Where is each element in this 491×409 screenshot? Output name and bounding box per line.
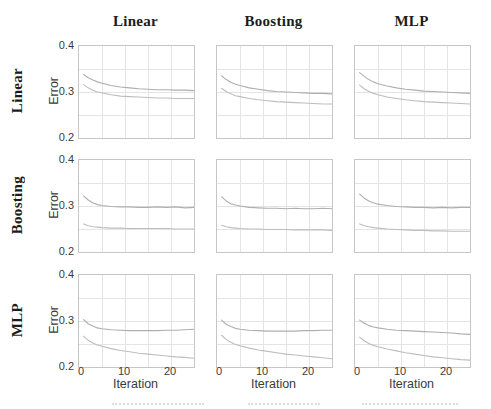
col-title-mlp: MLP [354, 13, 469, 33]
y-tick-0_3: 0.3 [38, 85, 74, 97]
x-axis-label-col2: Iteration [216, 377, 331, 391]
x-axis-label-col3: Iteration [354, 377, 469, 391]
x-tick-10: 10 [109, 365, 139, 377]
y-tick-0_4: 0.4 [38, 39, 74, 51]
y-tick-0_4: 0.4 [38, 153, 74, 165]
cropped-caption-artifact [362, 403, 458, 405]
x-tick-20: 20 [155, 365, 185, 377]
subplot-boosting-mlp [354, 159, 471, 253]
x-tick-0: 0 [204, 365, 234, 377]
subplot-mlp-mlp [354, 274, 471, 368]
x-tick-20: 20 [431, 365, 461, 377]
y-tick-0_2: 0.2 [38, 245, 74, 257]
subplot-mlp-boosting [216, 274, 333, 368]
col-title-linear: Linear [78, 13, 193, 33]
x-axis-label-col1: Iteration [78, 377, 193, 391]
y-tick-0_3: 0.3 [38, 199, 74, 211]
row-title-mlp: MLP [6, 274, 28, 366]
row-title-linear: Linear [6, 45, 28, 137]
figure-3x3-error-grid: Linear Boosting MLP Linear Boosting MLP … [0, 0, 491, 409]
x-tick-10: 10 [385, 365, 415, 377]
subplot-boosting-boosting [216, 159, 333, 253]
row-title-boosting: Boosting [6, 159, 28, 251]
subplot-mlp-linear [78, 274, 195, 368]
cropped-caption-artifact [248, 403, 320, 405]
x-tick-0: 0 [342, 365, 372, 377]
subplot-linear-linear [78, 45, 195, 139]
col-title-boosting: Boosting [216, 13, 331, 33]
y-tick-0_4: 0.4 [38, 268, 74, 280]
x-tick-10: 10 [247, 365, 277, 377]
x-tick-20: 20 [293, 365, 323, 377]
subplot-boosting-linear [78, 159, 195, 253]
subplot-linear-boosting [216, 45, 333, 139]
x-tick-0: 0 [66, 365, 96, 377]
cropped-caption-artifact [112, 403, 204, 405]
y-tick-0_3: 0.3 [38, 314, 74, 326]
y-tick-0_2: 0.2 [38, 131, 74, 143]
subplot-linear-mlp [354, 45, 471, 139]
